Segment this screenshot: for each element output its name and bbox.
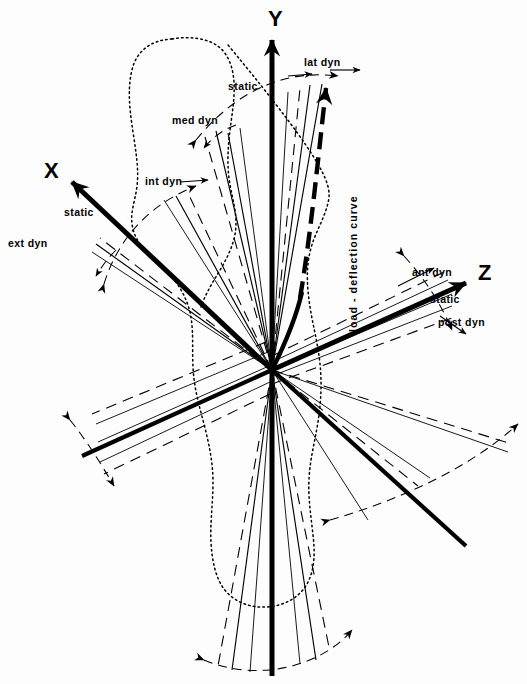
z-axis xyxy=(272,283,466,546)
upper-fan-arc xyxy=(196,75,338,140)
load-deflection-curve-shaft xyxy=(300,88,326,298)
x-axis-label: X xyxy=(44,158,59,183)
ant-dyn-ray-1 xyxy=(272,280,448,362)
ant-dyn-label: ant dyn xyxy=(412,266,452,278)
ext-dyn-ray-thin xyxy=(92,252,272,370)
post-dyn-label: post dyn xyxy=(438,316,485,328)
ext-dyn-arc-arrow xyxy=(96,250,116,276)
z-neg-ray-dash-1 xyxy=(272,370,512,444)
med-dyn-arc-arrow xyxy=(204,125,236,148)
x-axis-negative xyxy=(82,370,272,456)
lower-fan-ray-6 xyxy=(250,370,272,672)
x-neg-parallel-2 xyxy=(100,382,270,462)
post-dyn-ray-1 xyxy=(272,306,452,376)
z-axis-label: Z xyxy=(478,260,491,285)
int-dyn-ray-solid xyxy=(176,196,272,370)
int-dyn-label: int dyn xyxy=(145,175,182,187)
med-dyn-ray-dashed xyxy=(205,137,272,370)
ext-dyn-label: ext dyn xyxy=(8,237,48,249)
z-neg-ray-1 xyxy=(272,370,508,452)
lower-fan-ray-5 xyxy=(272,370,300,664)
lower-fan-ray-1 xyxy=(232,370,272,670)
z-axis-negative xyxy=(272,370,466,546)
x-axis xyxy=(72,182,272,456)
lower-fan-ray-3 xyxy=(272,370,316,660)
y-axis-label: Y xyxy=(268,6,283,31)
x-neg-parallel-dash-1 xyxy=(92,342,266,414)
static-z-label: static xyxy=(430,293,460,305)
x-neg-parallel-1 xyxy=(96,352,268,424)
z-neg-ray-dash-2 xyxy=(272,370,418,486)
int-dyn-ray-dashed xyxy=(188,193,272,370)
lower-fan-ray-2 xyxy=(218,370,272,666)
bone-outline xyxy=(129,38,329,607)
med-dyn-label: med dyn xyxy=(172,114,218,126)
lower-fan-arc xyxy=(204,630,352,670)
med-dyn-ray-thin xyxy=(240,128,272,370)
z-neg-ray-2 xyxy=(272,370,430,478)
x-neg-parallel-3 xyxy=(98,366,269,442)
load-deflection-curve-label: load - deflection curve xyxy=(347,195,359,332)
static-x-label: static xyxy=(64,206,94,218)
load-deflection-axes-diagram: Y X Z lat dyn static med dyn int dyn sta… xyxy=(0,0,527,684)
diagram-labels: Y X Z lat dyn static med dyn int dyn sta… xyxy=(8,6,491,332)
ext-dyn-ray-solid xyxy=(96,244,272,370)
lat-dyn-label: lat dyn xyxy=(304,56,341,68)
figure-canvas: Y X Z lat dyn static med dyn int dyn sta… xyxy=(0,0,527,684)
lat-dyn-ray-solid-2 xyxy=(272,84,322,370)
int-dyn-arrow-tag xyxy=(180,180,208,182)
static-y-label: static xyxy=(228,80,258,92)
